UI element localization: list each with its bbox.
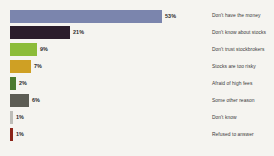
legend-item-label: Afraid of high fees xyxy=(212,82,252,87)
bar-row: 53% xyxy=(10,10,176,23)
bar xyxy=(10,128,13,141)
bar-row: 7% xyxy=(10,60,42,73)
legend-item-label: Don't trust stockbrokers xyxy=(212,48,264,53)
bar-row: 9% xyxy=(10,43,48,56)
bar-row: 1% xyxy=(10,128,24,141)
bar-value-label: 53% xyxy=(165,14,176,19)
bar-chart: 53%21%9%7%2%6%1%1% Don't have the moneyD… xyxy=(0,0,274,156)
legend-item-label: Refused to answer xyxy=(212,133,254,138)
bar-row: 6% xyxy=(10,94,40,107)
bar xyxy=(10,94,29,107)
bar-row: 1% xyxy=(10,111,24,124)
bar-value-label: 1% xyxy=(16,115,24,120)
legend-item-label: Don't know xyxy=(212,116,237,121)
bar xyxy=(10,60,31,73)
bar-row: 21% xyxy=(10,26,84,39)
bar xyxy=(10,26,70,39)
legend-item-label: Some other reason xyxy=(212,99,254,104)
bar xyxy=(10,77,16,90)
bar-value-label: 6% xyxy=(32,98,40,103)
bar xyxy=(10,111,13,124)
legend-item-label: Don't have the money xyxy=(212,14,260,19)
legend-item-label: Stocks are too risky xyxy=(212,65,256,70)
legend-item-label: Don't know about stocks xyxy=(212,31,266,36)
bar-value-label: 7% xyxy=(34,64,42,69)
bar xyxy=(10,43,37,56)
bar-row: 2% xyxy=(10,77,27,90)
bar xyxy=(10,10,162,23)
chart-legend: Don't have the moneyDon't know about sto… xyxy=(212,0,274,156)
bar-value-label: 9% xyxy=(40,47,48,52)
bar-value-label: 2% xyxy=(19,81,27,86)
chart-plot-area: 53%21%9%7%2%6%1%1% xyxy=(0,0,208,156)
bar-value-label: 21% xyxy=(73,30,84,35)
bar-value-label: 1% xyxy=(16,132,24,137)
